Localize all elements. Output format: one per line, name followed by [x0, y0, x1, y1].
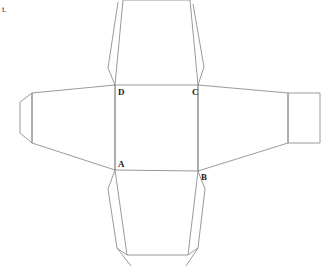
left-panel-trapezoid: [32, 85, 115, 170]
vertex-label-a: A: [118, 159, 125, 169]
top-panel-trapezoid: [115, 0, 198, 85]
top-right-glue-flap: [193, 4, 204, 85]
margin-text: t.: [2, 4, 7, 14]
right-end-rectangle-flap: [288, 93, 320, 143]
bottom-right-flap-base: [188, 248, 198, 255]
net-label-layer: DCAB: [118, 87, 207, 182]
diagram-root: DCAB t.: [0, 0, 323, 267]
vertex-label-c: C: [192, 87, 199, 97]
vertex-label-b: B: [201, 172, 207, 182]
bottom-panel-trapezoid: [115, 170, 198, 255]
bottom-left-glue-flap: [108, 170, 131, 266]
right-panel-trapezoid: [198, 85, 288, 171]
bottom-right-glue-flap: [186, 171, 205, 266]
net-diagram-canvas: DCAB t.: [0, 0, 323, 267]
central-face-ABCD: [115, 85, 198, 171]
net-shape-layer: [20, 0, 320, 266]
vertex-label-d: D: [118, 87, 125, 97]
left-end-flap: [20, 93, 32, 143]
